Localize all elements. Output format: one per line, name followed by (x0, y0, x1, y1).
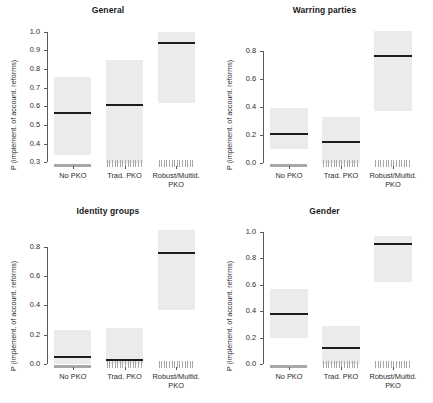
x-axis-tick (125, 166, 126, 169)
x-axis-tick (176, 367, 177, 370)
x-axis-category-label: No PKO (47, 373, 99, 382)
x-axis-category-label: Robust/Multid. PKO (367, 373, 419, 390)
y-axis-tick-label: 0.9 (14, 46, 40, 53)
y-axis-line (263, 232, 264, 365)
point-estimate-line (374, 55, 411, 57)
confidence-band (106, 60, 143, 164)
x-axis-category-label: Trad. PKO (99, 373, 151, 382)
y-axis-tick (44, 364, 47, 365)
panel-title: General (0, 5, 216, 15)
x-axis-category-label: No PKO (47, 172, 99, 181)
y-axis-tick (44, 335, 47, 336)
y-axis-tick (44, 162, 47, 163)
x-axis-category-label: Robust/Multid. PKO (367, 172, 419, 189)
x-axis-tick (341, 166, 342, 169)
x-axis-category-label: No PKO (263, 373, 315, 382)
panel-title: Identity groups (0, 206, 216, 216)
x-axis-tick (125, 367, 126, 370)
x-axis-category-label: Robust/Multid. PKO (150, 172, 202, 189)
y-axis-tick (44, 125, 47, 126)
point-estimate-line (54, 356, 91, 358)
confidence-band (54, 330, 91, 365)
panel-warring-parties: Warring parties0.00.20.40.60.8P (impleme… (216, 0, 433, 202)
y-axis-label: P (implement. of account. reforms) (226, 60, 233, 170)
y-axis-tick (44, 32, 47, 33)
y-axis-tick (260, 338, 263, 339)
y-axis-tick (260, 135, 263, 136)
x-axis-category-label: Trad. PKO (315, 172, 367, 181)
confidence-band (158, 230, 195, 309)
y-axis-tick-label: 1.0 (230, 228, 256, 235)
panel-gender: Gender0.00.20.40.60.81.0P (implement. of… (216, 201, 433, 403)
x-axis-tick (341, 367, 342, 370)
x-axis-tick (73, 367, 74, 370)
y-axis-line (263, 51, 264, 164)
x-axis-tick (289, 367, 290, 370)
confidence-band (374, 31, 411, 111)
point-estimate-line (106, 104, 143, 106)
y-axis-label: P (implement. of account. reforms) (10, 261, 17, 371)
y-axis-tick (260, 364, 263, 365)
x-axis-tick (289, 166, 290, 169)
y-axis-tick-label: 1.0 (14, 28, 40, 35)
y-axis-tick (44, 106, 47, 107)
y-axis-tick (44, 144, 47, 145)
y-axis-tick (260, 79, 263, 80)
panel-title: Gender (216, 206, 433, 216)
x-axis-category-label: Trad. PKO (99, 172, 151, 181)
x-axis-tick (393, 166, 394, 169)
panel-title: Warring parties (216, 5, 433, 15)
point-estimate-line (158, 252, 195, 254)
y-axis-tick-label: 0.8 (230, 47, 256, 54)
y-axis-tick (44, 247, 47, 248)
panel-identity-groups: Identity groups0.00.20.40.60.8P (impleme… (0, 201, 216, 403)
figure-root: General0.30.40.50.60.70.80.91.0P (implem… (0, 0, 433, 403)
confidence-band (322, 326, 359, 364)
confidence-band (54, 77, 91, 154)
y-axis-tick (44, 69, 47, 70)
y-axis-label: P (implement. of account. reforms) (10, 60, 17, 170)
point-estimate-line (374, 243, 411, 245)
y-axis-tick (260, 232, 263, 233)
point-estimate-line (322, 141, 359, 143)
y-axis-tick (260, 107, 263, 108)
x-axis-category-label: Trad. PKO (315, 373, 367, 382)
y-axis-tick (260, 51, 263, 52)
y-axis-tick (260, 285, 263, 286)
y-axis-tick-label: 0.8 (14, 243, 40, 250)
y-axis-tick (44, 276, 47, 277)
y-axis-label: P (implement. of account. reforms) (226, 261, 233, 371)
y-axis-tick (260, 163, 263, 164)
y-axis-line (47, 32, 48, 163)
y-axis-tick (260, 258, 263, 259)
y-axis-tick (44, 305, 47, 306)
confidence-band (270, 108, 307, 149)
point-estimate-line (270, 313, 307, 315)
y-axis-tick (44, 50, 47, 51)
x-axis-category-label: No PKO (263, 172, 315, 181)
y-axis-tick (44, 88, 47, 89)
point-estimate-line (322, 347, 359, 349)
x-axis-tick (176, 166, 177, 169)
y-axis-tick (260, 311, 263, 312)
x-axis-tick (73, 166, 74, 169)
x-axis-category-label: Robust/Multid. PKO (150, 373, 202, 390)
x-axis-tick (393, 367, 394, 370)
confidence-band (322, 117, 359, 163)
y-axis-line (47, 247, 48, 364)
panel-general: General0.30.40.50.60.70.80.91.0P (implem… (0, 0, 216, 202)
point-estimate-line (270, 133, 307, 135)
point-estimate-line (158, 42, 195, 44)
point-estimate-line (54, 112, 91, 114)
